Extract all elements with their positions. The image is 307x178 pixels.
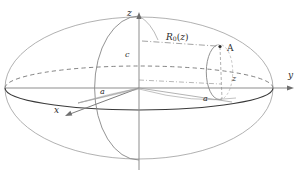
point-a-height-z-label: z bbox=[232, 75, 236, 83]
semi-axis-a-left-guide-2 bbox=[78, 89, 139, 103]
z-axis-arrowhead bbox=[136, 12, 141, 19]
point-a-marker bbox=[218, 45, 221, 48]
radius-r-glyph: R bbox=[166, 32, 173, 42]
point-a-label: A bbox=[227, 44, 234, 53]
polar-semi-axis-c-label: c bbox=[125, 51, 129, 59]
point-a-meridian-arc bbox=[206, 45, 222, 99]
point-a-level-line bbox=[139, 80, 221, 84]
equatorial-semi-axis-a-right-label: a bbox=[203, 95, 208, 103]
meridian-arc-upper-right bbox=[139, 16, 158, 40]
z-axis-label: z bbox=[127, 9, 132, 18]
semi-axis-a-right-arc bbox=[139, 89, 236, 100]
spheroid-figure: z y x c a a A z R0(z) bbox=[0, 0, 307, 178]
point-a-height-drop-line bbox=[220, 47, 222, 99]
y-axis-arrowhead bbox=[287, 85, 294, 90]
x-axis-arrowhead bbox=[65, 111, 72, 116]
y-axis-label: y bbox=[288, 71, 293, 80]
radius-r0-label: R0(z) bbox=[166, 33, 188, 42]
radius-close-paren: ) bbox=[185, 32, 189, 42]
x-axis-label: x bbox=[54, 106, 59, 115]
spheroid-drawing bbox=[0, 0, 307, 178]
equatorial-semi-axis-a-left-label: a bbox=[100, 88, 105, 96]
